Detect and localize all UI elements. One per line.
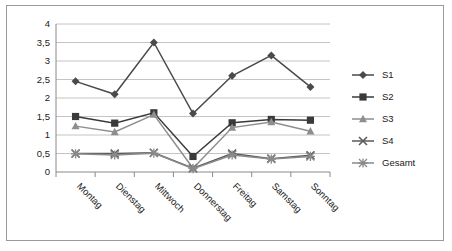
data-point-marker: [72, 77, 80, 85]
legend-label-gesamt: Gesamt: [382, 158, 415, 168]
data-point-marker: [307, 117, 314, 124]
legend-label-s1: S1: [382, 70, 394, 80]
data-point-marker: [306, 152, 315, 161]
data-point-marker: [71, 149, 80, 158]
data-point-marker: [188, 164, 197, 173]
y-axis-tick-label: 2: [20, 93, 50, 103]
y-axis-tick-label: 1,5: [20, 112, 50, 122]
legend-label-s4: S4: [382, 136, 394, 146]
data-point-marker: [110, 150, 119, 159]
data-point-marker: [72, 113, 79, 120]
y-axis-tick-label: 1: [20, 130, 50, 140]
y-axis-tick-label: 4: [20, 19, 50, 29]
data-point-marker: [359, 93, 366, 100]
data-point-marker: [359, 71, 367, 79]
y-axis-tick-label: 0: [20, 167, 50, 177]
y-axis-tick-label: 2,5: [20, 75, 50, 85]
data-point-marker: [358, 158, 367, 167]
legend-label-s2: S2: [382, 92, 394, 102]
data-point-marker: [111, 120, 118, 127]
data-point-marker: [72, 122, 80, 129]
y-axis-tick-label: 3,5: [20, 38, 50, 48]
data-point-marker: [189, 153, 196, 160]
legend-label-s3: S3: [382, 114, 394, 124]
y-axis-tick-label: 0,5: [20, 149, 50, 159]
series-line-s1: [76, 43, 311, 114]
data-point-marker: [149, 149, 158, 158]
y-axis-tick-label: 3: [20, 56, 50, 66]
data-point-marker: [267, 154, 276, 163]
data-point-marker: [228, 150, 237, 159]
